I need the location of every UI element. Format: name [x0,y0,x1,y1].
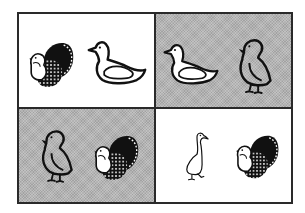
panel-bottom-left [19,109,156,202]
goose-icon [180,129,214,183]
duck-icon [162,42,220,86]
duck-icon [87,39,147,86]
turkey-icon [89,131,143,185]
panel-bottom-right [156,109,291,202]
turkey-icon [230,131,284,183]
panel-top-left [19,14,156,109]
panel-top-right [156,14,291,109]
chick-icon [33,129,75,185]
turkey-icon [24,38,78,92]
chick-icon [230,38,274,96]
bird-grid [17,12,293,204]
